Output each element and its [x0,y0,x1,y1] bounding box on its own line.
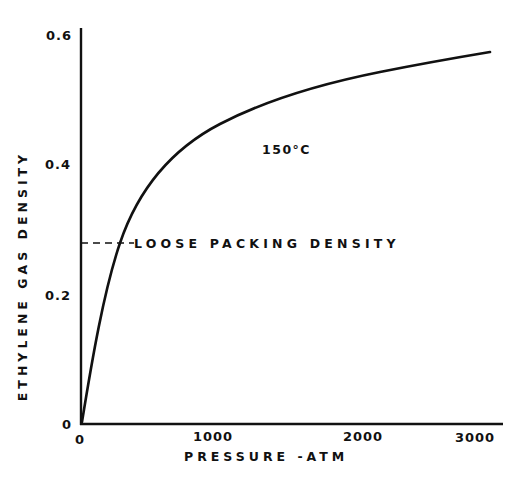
y-tick-label: 0.6 [46,28,72,43]
y-axis-title: ETHYLENE GAS DENSITY [15,151,30,401]
y-tick-label: 0 [62,417,72,432]
loose-packing-density-label: LOOSE PACKING DENSITY [134,236,400,251]
y-tick-label: 0.2 [45,288,71,303]
x-axis-title: PRESSURE -ATM [184,449,348,464]
chart: 0.6 0.4 0.2 0 0 1000 2000 3000 PRESSURE … [0,0,522,480]
curve-label-150c: 150°C [262,142,311,157]
x-tick-label: 1000 [193,429,233,444]
x-tick-label: 2000 [343,429,383,444]
x-tick-label: 0 [75,432,85,447]
x-tick-label: 3000 [455,430,495,445]
y-tick-label: 0.4 [45,157,71,172]
